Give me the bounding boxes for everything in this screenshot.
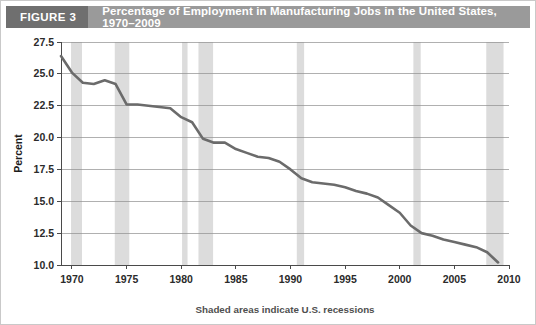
y-tick-label: 27.5 <box>34 36 55 48</box>
x-tick-label: 1970 <box>60 273 84 285</box>
recession-band <box>198 42 213 265</box>
y-tick-label: 25.0 <box>34 67 55 79</box>
recession-band <box>486 42 503 265</box>
x-tick-label: 1990 <box>279 273 303 285</box>
chart-footnote: Shaded areas indicate U.S. recessions <box>195 304 375 315</box>
x-tick-label: 1985 <box>224 273 248 285</box>
y-axis-title: Percent <box>12 134 24 173</box>
figure-number-label: FIGURE 3 <box>6 6 88 28</box>
figure-container: FIGURE 3 Percentage of Employment in Man… <box>0 0 536 325</box>
y-tick-label: 17.5 <box>34 163 55 175</box>
y-tick-label: 10.0 <box>34 259 55 271</box>
figure-title: Percentage of Employment in Manufacturin… <box>88 6 530 28</box>
line-chart: 10.012.515.017.520.022.525.027.5 1970197… <box>6 28 532 321</box>
figure-header: FIGURE 3 Percentage of Employment in Man… <box>6 6 530 28</box>
y-tick-label: 22.5 <box>34 99 55 111</box>
recession-band <box>297 42 304 265</box>
x-tick-label: 1995 <box>333 273 357 285</box>
recession-bands-group <box>71 42 503 265</box>
recession-band <box>115 42 130 265</box>
y-tick-label: 12.5 <box>34 227 55 239</box>
x-tick-label: 2005 <box>443 273 467 285</box>
x-axis-ticks-group <box>72 265 509 269</box>
x-tick-labels-group: 197019751980198519901995200020052010 <box>60 273 521 285</box>
y-tick-label: 20.0 <box>34 131 55 143</box>
recession-band <box>182 42 187 265</box>
y-tick-labels-group: 10.012.515.017.520.022.525.027.5 <box>34 36 55 271</box>
x-tick-label: 2010 <box>497 273 521 285</box>
y-tick-label: 15.0 <box>34 195 55 207</box>
y-axis-ticks-group <box>57 42 61 265</box>
x-tick-label: 1975 <box>115 273 139 285</box>
x-tick-label: 1980 <box>170 273 194 285</box>
chart-plot-area: 10.012.515.017.520.022.525.027.5 1970197… <box>6 28 532 321</box>
x-tick-label: 2000 <box>388 273 412 285</box>
